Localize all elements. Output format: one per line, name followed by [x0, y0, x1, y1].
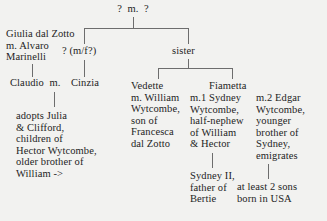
node-usa-sons: at least 2 sons born in USA [237, 181, 297, 204]
node-fiametta: Fiametta [209, 80, 247, 92]
connector-claudio-cinzia-descender [54, 92, 55, 107]
connector-root-to-unknown-child [84, 28, 85, 44]
node-sister: sister [172, 45, 195, 57]
connector-root-sibling-bar [84, 28, 189, 29]
node-cinzia: Cinzia [71, 77, 99, 89]
node-claudio-adoption-note: adopts Julia & Clifford, children of Hec… [16, 110, 97, 180]
connector-sister-to-fiametta [232, 68, 233, 79]
connector-root-stem [133, 17, 134, 28]
connector-sister-to-vedette [158, 68, 159, 79]
connector-sydney-to-sydney-ii [212, 153, 213, 168]
family-tree-diagram: ? m. ? Giulia dal Zotto m. Alvaro Marine… [0, 0, 327, 221]
node-fiametta-marriage-1: m.1 Sydney Wytcombe, half-nephew of Will… [190, 92, 244, 150]
node-unknown-child: ? (m/f?) [62, 45, 96, 57]
connector-sister-children-bar [158, 68, 233, 69]
connector-unknown-to-cinzia [84, 60, 85, 77]
connector-marinelli-to-claudio [32, 64, 33, 77]
node-claudio: Claudio m. [10, 77, 60, 89]
connector-edgar-to-usa-sons [268, 164, 269, 179]
node-fiametta-marriage-2: m.2 Edgar Wytcombe, younger brother of S… [256, 92, 305, 162]
connector-sister-stem [188, 59, 189, 68]
node-sydney-ii: Sydney II, father of Bertie [190, 170, 235, 205]
connector-root-to-sister [188, 28, 189, 44]
node-root-couple: ? m. ? [110, 3, 156, 15]
node-vedette: Vedette m. William Wytcombe, son of Fran… [131, 80, 180, 150]
